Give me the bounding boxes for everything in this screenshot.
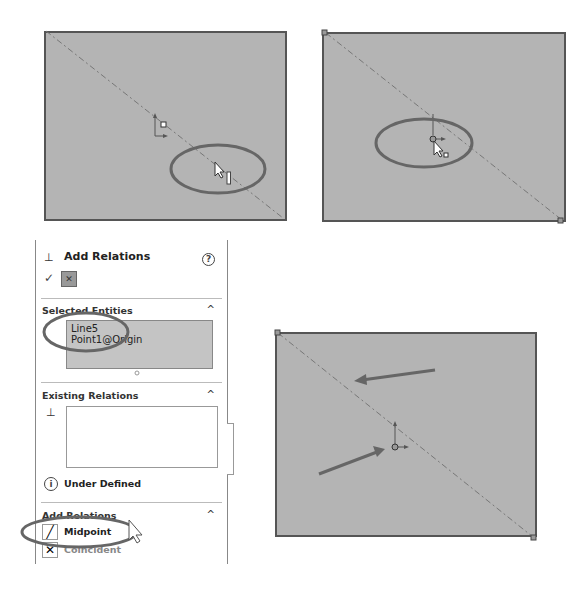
sketch-canvas-top-right[interactable] [322, 32, 566, 222]
collapse-caret-icon[interactable]: ^ [207, 389, 215, 400]
panel-flyout-tab[interactable] [227, 423, 234, 475]
highlight-overlay [16, 510, 176, 560]
existing-relations-list[interactable] [66, 406, 218, 468]
status-text: Under Defined [64, 478, 141, 489]
info-icon: i [44, 477, 58, 491]
existing-relations-title: Existing Relations [42, 390, 138, 401]
property-manager: ⊥ Add Relations ? ✓ ✕ Selected Entities … [35, 240, 228, 564]
divider [41, 382, 222, 383]
sketch-canvas-top-left[interactable] [44, 31, 287, 221]
sketch-canvas-bottom-right[interactable] [275, 332, 537, 537]
collapse-caret-icon[interactable]: ^ [207, 509, 215, 520]
relation-icon: ⊥ [46, 406, 56, 419]
divider [41, 502, 222, 503]
